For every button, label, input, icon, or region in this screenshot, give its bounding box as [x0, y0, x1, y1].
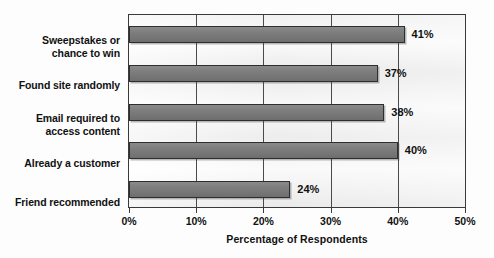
category-label-email-required: Email required to access content: [0, 112, 120, 137]
x-tick-mark-10%: [196, 208, 197, 213]
x-tick-mark-0%: [129, 208, 130, 213]
bar-value-label-2: 37%: [378, 65, 407, 82]
bar-5[interactable]: [129, 181, 290, 198]
x-tick-label-30%: 30%: [308, 215, 354, 227]
category-label-line: Found site randomly: [0, 79, 120, 92]
bar-row: 41%: [129, 15, 467, 54]
x-tick-label-40%: 40%: [375, 215, 421, 227]
x-tick-label-10%: 10%: [173, 215, 219, 227]
category-label-line: chance to win: [0, 47, 120, 60]
category-label-found-site-randomly: Found site randomly: [0, 79, 120, 92]
bar-value-label-4: 40%: [398, 142, 427, 159]
category-label-already-a-customer: Already a customer: [0, 157, 120, 170]
category-label-sweepstakes: Sweepstakes or chance to win: [0, 34, 120, 59]
category-axis-labels: Sweepstakes or chance to win Found site …: [0, 14, 126, 208]
plot-area: 41%37%38%40%24%: [128, 14, 466, 208]
x-tick-label-20%: 20%: [240, 215, 286, 227]
bar-chart: Sweepstakes or chance to win Found site …: [0, 0, 494, 258]
bar-3[interactable]: [129, 104, 384, 121]
category-label-line: access content: [0, 125, 120, 138]
x-tick-mark-50%: [465, 208, 466, 213]
x-tick-label-50%: 50%: [442, 215, 488, 227]
x-axis-title: Percentage of Respondents: [128, 233, 466, 245]
bar-row: 40%: [129, 131, 467, 170]
x-tick-mark-40%: [398, 208, 399, 213]
bar-row: 38%: [129, 93, 467, 132]
category-label-line: Sweepstakes or: [0, 34, 120, 47]
category-label-line: Friend recommended: [0, 196, 120, 209]
x-tick-label-0%: 0%: [106, 215, 152, 227]
bar-value-label-3: 38%: [384, 104, 413, 121]
category-label-line: Email required to: [0, 112, 120, 125]
bar-1[interactable]: [129, 26, 405, 43]
x-tick-mark-20%: [263, 208, 264, 213]
bar-row: 37%: [129, 54, 467, 93]
category-label-line: Already a customer: [0, 157, 120, 170]
bar-2[interactable]: [129, 65, 378, 82]
category-label-friend-recommended: Friend recommended: [0, 196, 120, 209]
bar-row: 24%: [129, 170, 467, 209]
bar-value-label-1: 41%: [405, 26, 434, 43]
bar-value-label-5: 24%: [290, 181, 319, 198]
x-tick-mark-30%: [331, 208, 332, 213]
bar-4[interactable]: [129, 142, 398, 159]
